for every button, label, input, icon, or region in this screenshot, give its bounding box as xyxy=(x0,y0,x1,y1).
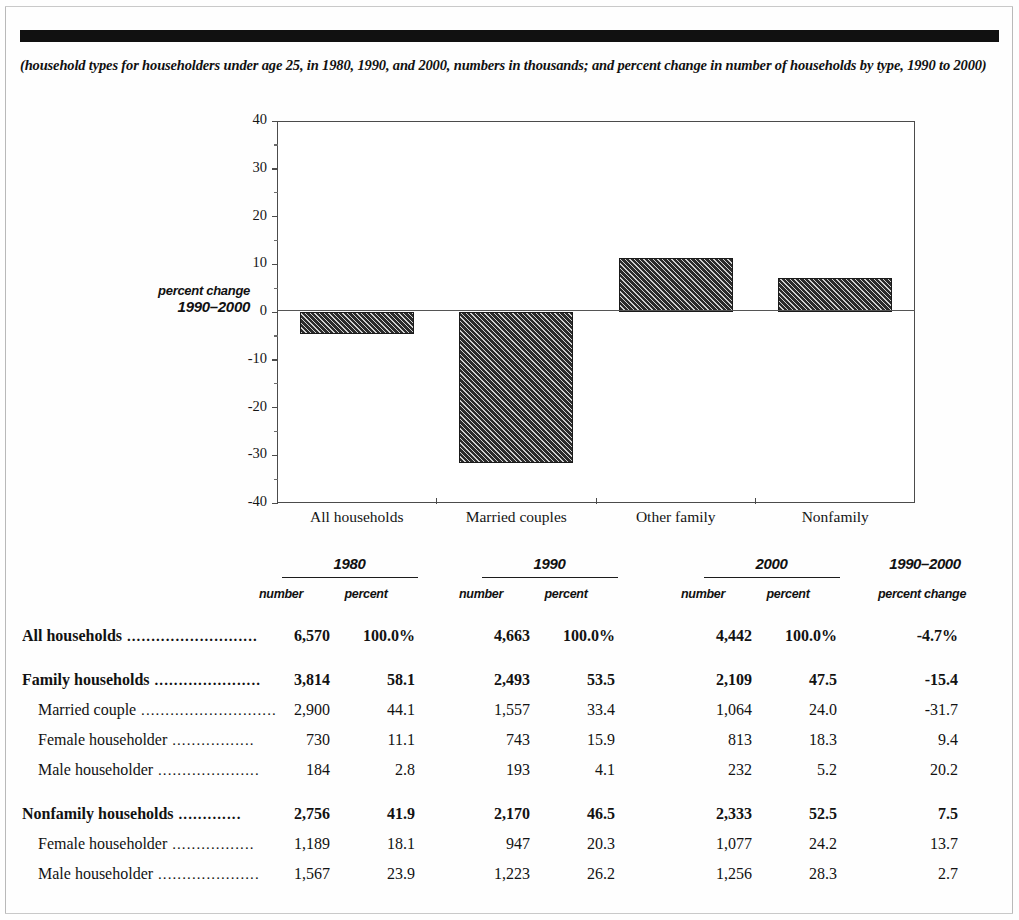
y-tick-label: 20 xyxy=(233,207,267,224)
y-tick-mark xyxy=(272,168,278,169)
row-label-text: Female householder xyxy=(38,835,167,852)
table-cell: 15.9 xyxy=(505,731,615,749)
y-tick-minor xyxy=(274,383,278,384)
table-cell: 7.5 xyxy=(848,805,958,823)
table-cell: 18.1 xyxy=(305,835,415,853)
y-tick-mark xyxy=(272,264,278,265)
bar-chart: percent change 1990–2000 403020100-10-20… xyxy=(0,0,1019,545)
table-cell: 100.0% xyxy=(305,627,415,645)
y-tick-mark xyxy=(272,455,278,456)
table-cell: 100.0% xyxy=(727,627,837,645)
row-label-text: Female householder xyxy=(38,731,167,748)
y-tick-label: 10 xyxy=(233,254,267,271)
y-tick-label: 0 xyxy=(233,302,267,319)
column-header: percent change xyxy=(862,587,982,601)
y-axis-title-line1: percent change xyxy=(140,283,250,299)
table-cell: 11.1 xyxy=(305,731,415,749)
y-tick-minor xyxy=(274,192,278,193)
y-tick-label: -10 xyxy=(233,350,267,367)
row-label-text: Married couple xyxy=(38,701,136,718)
table-cell: 44.1 xyxy=(305,701,415,719)
table-cell: 2.8 xyxy=(305,761,415,779)
y-tick-minor xyxy=(274,335,278,336)
x-tick-mark xyxy=(436,498,437,504)
y-tick-mark xyxy=(272,359,278,360)
y-tick-minor xyxy=(274,479,278,480)
table-cell: 24.0 xyxy=(727,701,837,719)
x-tick-label: All households xyxy=(277,508,437,526)
x-tick-label: Other family xyxy=(596,508,756,526)
table-cell: 53.5 xyxy=(505,671,615,689)
table-cell: 20.2 xyxy=(848,761,958,779)
table-cell: 4.1 xyxy=(505,761,615,779)
table-row: All households .........................… xyxy=(0,627,1019,649)
table-cell: 9.4 xyxy=(848,731,958,749)
column-header: percent xyxy=(311,587,421,601)
x-tick-mark xyxy=(755,498,756,504)
row-label-text: Nonfamily households xyxy=(22,805,174,822)
column-group-rule xyxy=(482,577,618,578)
table-cell: 52.5 xyxy=(727,805,837,823)
column-header: percent xyxy=(511,587,621,601)
column-group-rule xyxy=(282,577,418,578)
page-root: (household types for householders under … xyxy=(0,0,1019,920)
table-cell: 33.4 xyxy=(505,701,615,719)
zero-baseline xyxy=(277,310,915,311)
x-tick-mark xyxy=(596,498,597,504)
y-tick-minor xyxy=(274,144,278,145)
table-cell: 18.3 xyxy=(727,731,837,749)
table-cell: 41.9 xyxy=(305,805,415,823)
table-cell: 26.2 xyxy=(505,865,615,883)
y-tick-mark xyxy=(272,121,278,122)
table-cell: 47.5 xyxy=(727,671,837,689)
column-header: percent xyxy=(733,587,843,601)
bar xyxy=(459,312,573,463)
row-label-text: Male householder xyxy=(38,761,153,778)
table-row: Female householder .................7301… xyxy=(0,731,1019,753)
column-group-rule xyxy=(704,577,840,578)
table-cell: 28.3 xyxy=(727,865,837,883)
y-tick-label: 40 xyxy=(233,111,267,128)
table-cell: 13.7 xyxy=(848,835,958,853)
table-cell: -15.4 xyxy=(848,671,958,689)
y-tick-mark xyxy=(272,407,278,408)
x-tick-label: Married couples xyxy=(437,508,597,526)
row-label-text: Male householder xyxy=(38,865,153,882)
column-group-header: 2000 xyxy=(692,555,852,572)
y-tick-label: -30 xyxy=(233,445,267,462)
table-cell: 5.2 xyxy=(727,761,837,779)
table-cell: -4.7% xyxy=(848,627,958,645)
table-row: Family households ......................… xyxy=(0,671,1019,693)
table-cell: 58.1 xyxy=(305,671,415,689)
table-cell: 100.0% xyxy=(505,627,615,645)
row-label-text: All households xyxy=(22,627,122,644)
y-tick-minor xyxy=(274,240,278,241)
column-group-header: 1990 xyxy=(470,555,630,572)
table-row: Male householder .....................1,… xyxy=(0,865,1019,887)
table-cell: 24.2 xyxy=(727,835,837,853)
y-tick-mark xyxy=(272,312,278,313)
y-tick-minor xyxy=(274,288,278,289)
row-label-text: Family households xyxy=(22,671,150,688)
bar xyxy=(778,278,892,312)
bar xyxy=(619,258,733,312)
table-row: Nonfamily households .............2,7564… xyxy=(0,805,1019,827)
y-tick-mark xyxy=(272,503,278,504)
table-row: Male householder .....................18… xyxy=(0,761,1019,783)
column-group-header: 1990–2000 xyxy=(845,555,1005,572)
data-table: 1980199020001990–2000numberpercentnumber… xyxy=(0,545,1019,920)
table-cell: 20.3 xyxy=(505,835,615,853)
table-cell: 2.7 xyxy=(848,865,958,883)
bar xyxy=(300,312,414,334)
y-tick-minor xyxy=(274,431,278,432)
y-tick-label: -40 xyxy=(233,493,267,510)
table-cell: 46.5 xyxy=(505,805,615,823)
y-tick-mark xyxy=(272,216,278,217)
table-cell: 23.9 xyxy=(305,865,415,883)
y-tick-label: 30 xyxy=(233,159,267,176)
x-tick-label: Nonfamily xyxy=(756,508,916,526)
table-row: Married couple .........................… xyxy=(0,701,1019,723)
column-group-header: 1980 xyxy=(270,555,430,572)
y-tick-label: -20 xyxy=(233,398,267,415)
table-cell: -31.7 xyxy=(848,701,958,719)
